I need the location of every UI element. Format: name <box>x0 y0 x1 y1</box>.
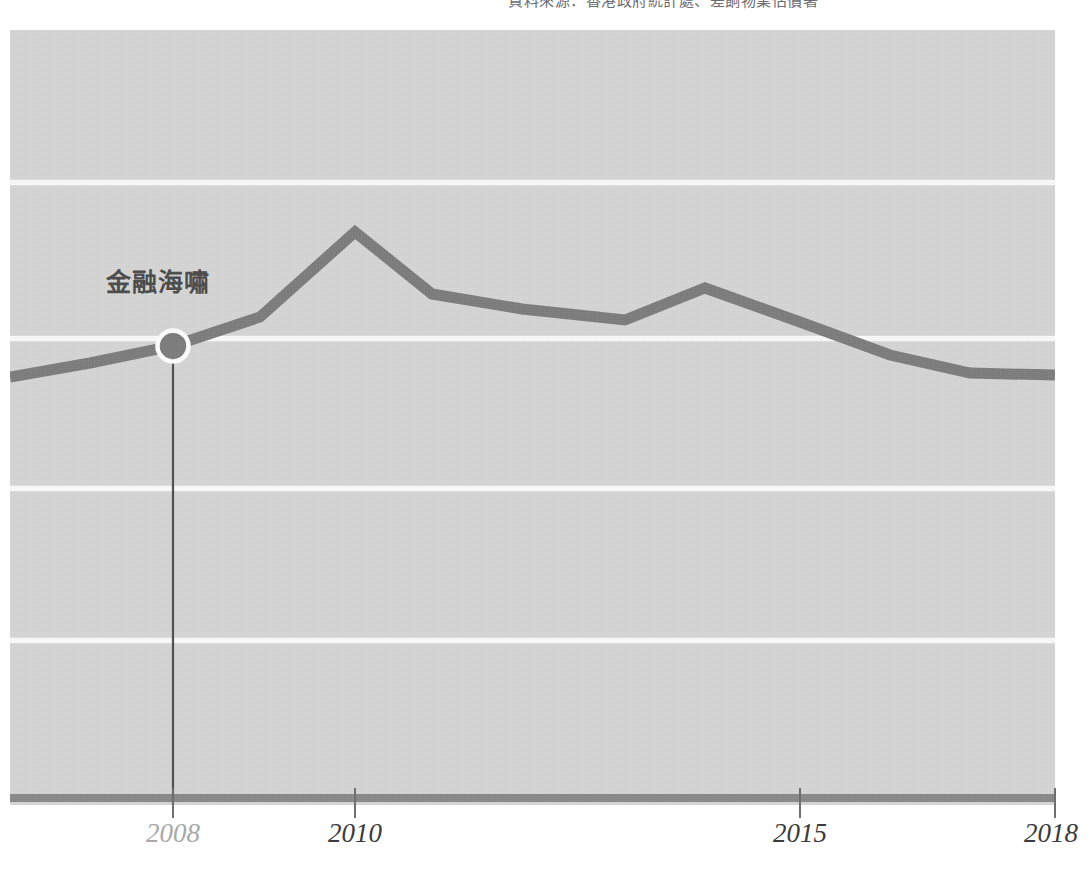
tick-mark-2008 <box>172 788 174 818</box>
plot-area: 金融海嘯 <box>10 30 1055 805</box>
x-tick-label-2018: 2018 <box>1024 820 1078 847</box>
chart-figure: 資料來源：香港政府統計處、差餉物業估價署 金融海嘯 2008 2010 2015… <box>0 0 1089 883</box>
x-tick-label-2010: 2010 <box>328 820 382 847</box>
tick-mark-2010 <box>354 788 356 818</box>
x-tick-label-2008: 2008 <box>146 820 200 847</box>
x-tick-label-2015: 2015 <box>773 820 827 847</box>
source-caption-text: 資料來源：香港政府統計處、差餉物業估價署 <box>508 0 818 10</box>
tick-mark-2015 <box>799 788 801 818</box>
tick-mark-2018 <box>1054 788 1056 818</box>
source-caption: 資料來源：香港政府統計處、差餉物業估價署 <box>0 0 1089 14</box>
series-overlay <box>10 30 1055 805</box>
financial-tsunami-marker[interactable] <box>160 333 186 359</box>
annotation-label-financial-tsunami: 金融海嘯 <box>106 270 210 295</box>
